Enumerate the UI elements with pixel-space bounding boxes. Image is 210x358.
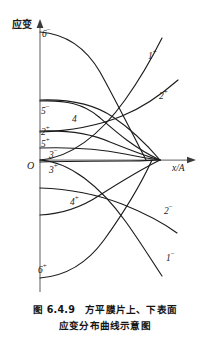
strain-curves-plot <box>0 0 210 300</box>
curve-label-3-minus: 3− <box>49 151 58 161</box>
curve-4-plus <box>40 160 160 215</box>
curve-6-plus <box>40 160 152 278</box>
curve-label-2-plus-right: 2+ <box>159 92 168 102</box>
curve-label-4: 4 <box>72 115 77 125</box>
curve-label-4-plus: 4+ <box>70 198 79 208</box>
y-axis-title: 应变 <box>12 16 31 31</box>
curve-label-1-minus: 1− <box>166 254 175 264</box>
curve-label-6-plus: 6+ <box>38 266 47 276</box>
x-axis-arrowhead <box>187 157 196 163</box>
origin-label: O <box>27 160 34 171</box>
y-axis-arrowhead <box>37 19 44 28</box>
curve-label-5-minus: 5− <box>41 107 50 117</box>
figure-container: 应变 x/A O 6− 1+ 2+ 5− 4 2+ 5+ 3− 3+ 4+ 2−… <box>0 0 210 358</box>
curve-label-1-plus: 1+ <box>148 52 157 62</box>
curve-5-plus <box>40 131 160 160</box>
curve-label-6-minus: 6− <box>42 30 51 40</box>
figure-caption: 图 6.4.9 方平膜片上、下表面 应变分布曲线示意图 <box>0 302 210 333</box>
curve-label-2-minus: 2− <box>164 207 173 217</box>
x-axis-title: x/A <box>172 163 185 173</box>
plot-area: 应变 x/A O 6− 1+ 2+ 5− 4 2+ 5+ 3− 3+ 4+ 2−… <box>0 0 210 300</box>
curve-label-5-plus: 5+ <box>41 140 50 150</box>
curve-6-minus <box>40 32 146 160</box>
caption-line-2: 应变分布曲线示意图 <box>0 318 210 334</box>
curve-2-minus <box>40 188 177 233</box>
curve-label-3-plus: 3+ <box>49 166 58 176</box>
curves-group <box>40 32 178 278</box>
caption-line-1: 图 6.4.9 方平膜片上、下表面 <box>0 302 210 318</box>
